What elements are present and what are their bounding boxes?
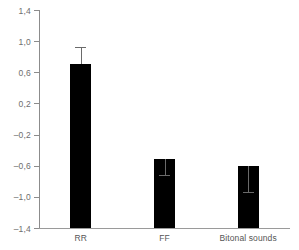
y-tick-label: –1,4 bbox=[14, 224, 31, 234]
y-tick: –0,2 bbox=[34, 135, 39, 136]
x-tick-label: RR bbox=[75, 233, 87, 243]
y-tick: –1,4 bbox=[34, 228, 39, 229]
x-tick-label: Bitonal sounds bbox=[220, 233, 277, 243]
y-tick: 1,4 bbox=[34, 10, 39, 11]
y-tick-label: 0,2 bbox=[19, 99, 31, 109]
x-tick-label: FF bbox=[159, 233, 170, 243]
y-axis-line bbox=[39, 10, 40, 229]
error-bar-stem bbox=[165, 159, 166, 175]
y-tick: 0,2 bbox=[34, 103, 39, 104]
y-tick: –0,6 bbox=[34, 166, 39, 167]
y-tick-label: –1,0 bbox=[14, 192, 31, 202]
bar-chart: 1,41,00,60,2–0,2–0,6–1,0–1,4 RRFFBitonal… bbox=[0, 0, 299, 250]
y-tick: 0,6 bbox=[34, 72, 39, 73]
y-tick: 1,0 bbox=[34, 41, 39, 42]
y-tick-label: –0,2 bbox=[14, 130, 31, 140]
error-bar-cap bbox=[75, 47, 86, 48]
y-tick: –1,0 bbox=[34, 197, 39, 198]
x-axis-line bbox=[39, 228, 290, 229]
error-bar-stem bbox=[248, 166, 249, 192]
y-tick-label: 1,0 bbox=[19, 37, 31, 47]
error-bar-cap bbox=[243, 192, 254, 193]
bar[interactable] bbox=[70, 64, 91, 228]
error-bar-cap bbox=[159, 175, 170, 176]
error-bar-stem bbox=[81, 47, 82, 63]
y-tick-label: –0,6 bbox=[14, 161, 31, 171]
y-tick-label: 1,4 bbox=[19, 6, 31, 16]
y-tick-label: 0,6 bbox=[19, 68, 31, 78]
